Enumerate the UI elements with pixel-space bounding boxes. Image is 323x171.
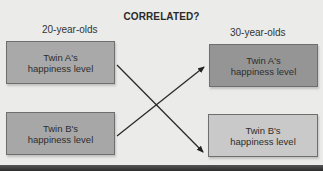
- bottom-border-strip: [0, 165, 323, 171]
- cross-arrows: [0, 0, 323, 171]
